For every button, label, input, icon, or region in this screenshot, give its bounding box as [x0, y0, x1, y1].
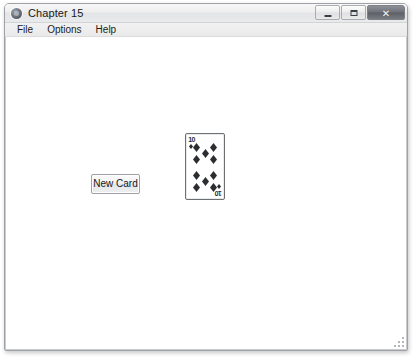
menu-item-options[interactable]: Options	[40, 23, 88, 36]
resize-grip[interactable]	[392, 335, 404, 347]
application-window: Chapter 15 ✕ File Options Help New Card	[4, 3, 408, 351]
new-card-button[interactable]: New Card	[91, 174, 140, 194]
desktop-background: Chapter 15 ✕ File Options Help New Card	[0, 0, 417, 360]
card-pip	[210, 171, 217, 180]
close-icon: ✕	[382, 8, 391, 17]
card-pip	[210, 183, 217, 192]
menu-item-file[interactable]: File	[10, 23, 40, 36]
maximize-icon	[350, 10, 357, 16]
window-title: Chapter 15	[28, 7, 83, 19]
menu-bar: File Options Help	[5, 23, 407, 37]
card-pip-field	[192, 139, 218, 194]
playing-card: 10 10	[185, 133, 225, 200]
minimize-button[interactable]	[315, 5, 340, 20]
app-icon	[11, 8, 22, 19]
maximize-button[interactable]	[341, 5, 366, 20]
card-pip	[202, 149, 209, 158]
client-area: New Card 10 10	[5, 37, 407, 350]
menu-item-help[interactable]: Help	[89, 23, 124, 36]
card-pip	[193, 183, 200, 192]
card-pip	[210, 143, 217, 152]
title-bar[interactable]: Chapter 15 ✕	[5, 4, 407, 23]
card-pip	[210, 155, 217, 164]
close-button[interactable]: ✕	[367, 5, 405, 20]
card-pip	[193, 143, 200, 152]
card-pip	[193, 155, 200, 164]
window-controls: ✕	[314, 5, 405, 20]
card-pip	[202, 177, 209, 186]
minimize-icon	[324, 15, 331, 17]
card-pip	[193, 171, 200, 180]
